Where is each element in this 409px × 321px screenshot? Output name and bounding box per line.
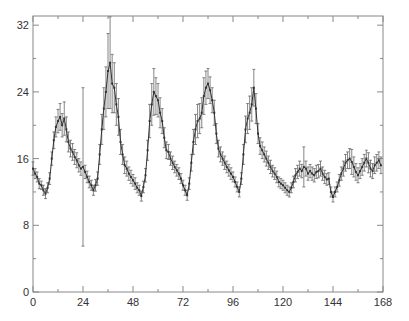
data-point	[126, 168, 128, 170]
data-point	[80, 168, 82, 170]
data-point	[124, 164, 126, 166]
data-point	[276, 176, 278, 178]
data-point	[217, 148, 219, 150]
x-tick-label: 168	[374, 296, 392, 308]
y-tick-label: 24	[17, 86, 29, 98]
data-point	[299, 168, 301, 170]
data-point	[49, 178, 51, 180]
data-point	[165, 149, 167, 151]
data-point	[345, 162, 347, 164]
data-point	[59, 116, 61, 118]
data-point	[130, 176, 132, 178]
data-point	[153, 91, 155, 93]
data-point	[95, 184, 97, 186]
data-point	[53, 139, 55, 141]
data-point	[74, 156, 76, 158]
data-point	[242, 153, 244, 155]
data-point	[347, 159, 349, 161]
data-point	[147, 149, 149, 151]
data-point	[201, 112, 203, 114]
data-point	[45, 193, 47, 195]
data-point	[338, 179, 340, 181]
data-point	[90, 184, 92, 186]
data-point	[167, 151, 169, 153]
data-point	[245, 128, 247, 130]
data-point	[32, 168, 34, 170]
data-point	[261, 149, 263, 151]
data-point	[332, 196, 334, 198]
data-point	[190, 162, 192, 164]
x-tick-label: 144	[324, 296, 342, 308]
data-point	[111, 83, 113, 85]
data-point	[378, 159, 380, 161]
data-point	[249, 112, 251, 114]
data-point	[78, 164, 80, 166]
data-point	[76, 159, 78, 161]
data-point	[184, 189, 186, 191]
data-point	[355, 171, 357, 173]
data-point	[351, 161, 353, 163]
data-point	[322, 173, 324, 175]
data-point	[101, 128, 103, 130]
data-point	[374, 164, 376, 166]
data-point	[145, 174, 147, 176]
data-point	[255, 108, 257, 110]
data-point	[220, 153, 222, 155]
data-point	[149, 120, 151, 122]
x-tick-label: 24	[77, 296, 89, 308]
data-point	[330, 191, 332, 193]
data-point	[282, 184, 284, 186]
data-point	[88, 181, 90, 183]
data-point	[267, 162, 269, 164]
data-point	[367, 162, 369, 164]
data-point	[99, 153, 101, 155]
data-point	[278, 181, 280, 183]
data-point	[363, 162, 365, 164]
x-axis-tick-labels: 024487296120144168	[30, 296, 392, 308]
data-point	[342, 168, 344, 170]
data-point	[326, 178, 328, 180]
data-point	[353, 166, 355, 168]
data-point	[103, 108, 105, 110]
error-bars	[32, 17, 383, 246]
data-point	[317, 170, 319, 172]
data-point	[92, 189, 94, 191]
data-point	[265, 158, 267, 160]
data-point	[70, 148, 72, 150]
data-point	[334, 191, 336, 193]
data-point	[259, 145, 261, 147]
data-point	[328, 178, 330, 180]
data-point	[247, 118, 249, 120]
data-point	[303, 166, 305, 168]
plot-frame	[33, 16, 383, 292]
data-point	[113, 87, 115, 89]
data-point	[324, 176, 326, 178]
data-point	[34, 173, 36, 175]
data-point	[286, 189, 288, 191]
x-tick-label: 120	[274, 296, 292, 308]
data-point	[176, 169, 178, 171]
data-point	[151, 103, 153, 105]
data-point	[307, 173, 309, 175]
x-tick-label: 96	[227, 296, 239, 308]
data-point	[163, 137, 165, 139]
data-point	[313, 174, 315, 176]
x-tick-label: 48	[127, 296, 139, 308]
data-point	[136, 187, 138, 189]
data-point	[86, 176, 88, 178]
data-point	[122, 153, 124, 155]
data-point	[380, 164, 382, 166]
data-point	[301, 170, 303, 172]
data-point	[140, 195, 142, 197]
data-point	[82, 166, 84, 168]
data-point	[361, 166, 363, 168]
data-point	[55, 126, 57, 128]
time-series-chart: 024487296120144168 08162432	[0, 0, 409, 321]
data-point	[42, 189, 44, 191]
data-point	[192, 141, 194, 143]
data-point	[65, 128, 67, 130]
y-tick-label: 8	[23, 219, 29, 231]
data-point	[311, 173, 313, 175]
data-point	[205, 87, 207, 89]
y-tick-label: 32	[17, 19, 29, 31]
